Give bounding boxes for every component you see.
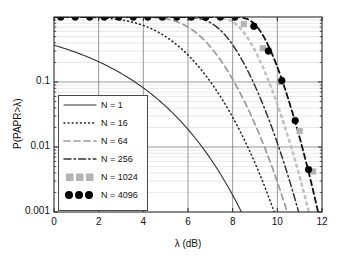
y-tick-label: 0.001: [25, 205, 50, 216]
legend-line-sample: [63, 117, 97, 129]
x-tick-label: 2: [79, 216, 119, 227]
marker-square: [241, 21, 247, 27]
x-tick-label: 8: [213, 216, 253, 227]
marker-circle: [265, 48, 272, 55]
legend-line-sample: [63, 99, 97, 111]
legend-item[interactable]: N = 4096: [59, 186, 147, 204]
marker-square: [297, 128, 303, 134]
marker-circle: [250, 23, 257, 30]
x-tick-label: 10: [257, 216, 297, 227]
legend-item[interactable]: N = 1024: [59, 168, 147, 186]
legend-item[interactable]: N = 1: [59, 96, 147, 114]
legend-line-sample: [63, 171, 97, 183]
legend-item-label: N = 4096: [101, 190, 138, 200]
legend-item-label: N = 1024: [101, 172, 138, 182]
y-tick-label: 0.1: [36, 75, 50, 86]
marker-circle: [305, 166, 312, 173]
x-tick-label: 4: [123, 216, 163, 227]
legend-item[interactable]: N = 64: [59, 132, 147, 150]
x-axis-label: λ (dB): [128, 238, 248, 249]
legend-item-label: N = 16: [101, 118, 128, 128]
legend-item-label: N = 256: [101, 154, 133, 164]
marker-circle: [292, 117, 299, 124]
x-tick-label: 12: [302, 216, 340, 227]
legend-item[interactable]: N = 256: [59, 150, 147, 168]
legend-line-sample: [63, 135, 97, 147]
x-tick-label: 0: [34, 216, 74, 227]
chart-legend: N = 1N = 16N = 64N = 256N = 1024N = 4096: [58, 95, 148, 211]
legend-line-sample: [63, 153, 97, 165]
papr-ccdf-chart: P(PAPR>λ) λ (dB) 0.10.010.001 024681012 …: [0, 0, 340, 266]
marker-circle: [278, 77, 285, 84]
y-axis-label: P(PAPR>λ): [12, 98, 23, 149]
x-tick-label: 6: [168, 216, 208, 227]
legend-item-label: N = 1: [101, 100, 123, 110]
y-tick-label: 0.01: [31, 140, 50, 151]
legend-item-label: N = 64: [101, 136, 128, 146]
legend-item[interactable]: N = 16: [59, 114, 147, 132]
legend-line-sample: [63, 189, 97, 201]
